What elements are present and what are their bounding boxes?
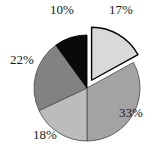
pie-slice-label-3: 22% bbox=[10, 53, 34, 66]
pie-chart: 17% 33% 18% 22% 10% bbox=[0, 0, 159, 150]
pie-chart-canvas bbox=[0, 0, 159, 150]
pie-slice-label-0: 17% bbox=[109, 3, 133, 16]
pie-slice-label-4: 10% bbox=[50, 3, 74, 16]
pie-slice-label-1: 33% bbox=[119, 106, 143, 119]
pie-slice-group bbox=[34, 27, 140, 141]
pie-slice-label-2: 18% bbox=[33, 128, 57, 141]
